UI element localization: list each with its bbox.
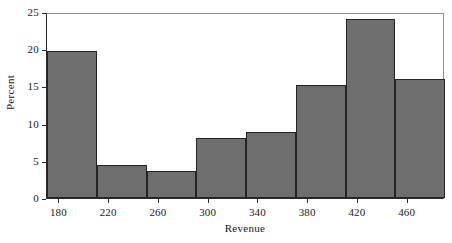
histogram-bar (47, 51, 97, 198)
x-tick-mark (307, 199, 308, 203)
y-axis-tick: 10 (0, 125, 46, 126)
y-axis-tick: 15 (0, 87, 46, 88)
x-tick-mark (357, 199, 358, 203)
x-tick-label: 300 (186, 205, 230, 219)
y-tick-label: 5 (33, 154, 39, 169)
histogram-bar (196, 138, 246, 198)
x-tick-label: 420 (335, 205, 379, 219)
histogram-bar (147, 171, 197, 198)
histogram-figure: Percent 0510152025 180220260300340380420… (0, 0, 452, 243)
y-axis-tick: 0 (0, 199, 46, 200)
histogram-bar (97, 165, 147, 198)
y-tick-label: 10 (28, 117, 39, 132)
bar-series (47, 14, 443, 198)
y-axis-tick: 20 (0, 50, 46, 51)
y-axis-title: Percent (4, 53, 17, 133)
x-tick-label: 180 (36, 205, 80, 219)
x-tick-mark (158, 199, 159, 203)
x-tick-label: 460 (385, 205, 429, 219)
histogram-bar (246, 132, 296, 198)
y-tick-label: 0 (33, 191, 39, 206)
histogram-bar (296, 85, 346, 198)
x-tick-label: 260 (136, 205, 180, 219)
x-tick-mark (407, 199, 408, 203)
histogram-bar (346, 19, 396, 198)
y-tick-label: 25 (28, 5, 39, 20)
y-tick-mark (42, 199, 46, 200)
x-tick-mark (257, 199, 258, 203)
x-tick-label: 380 (285, 205, 329, 219)
plot-area (46, 13, 444, 199)
x-tick-label: 340 (235, 205, 279, 219)
y-axis-tick: 5 (0, 162, 46, 163)
histogram-bar (395, 79, 445, 198)
x-tick-mark (58, 199, 59, 203)
y-tick-label: 15 (28, 79, 39, 94)
x-tick-mark (108, 199, 109, 203)
x-tick-mark (208, 199, 209, 203)
x-axis-title: Revenue (46, 221, 444, 235)
y-tick-label: 20 (28, 42, 39, 57)
y-axis-tick: 25 (0, 13, 46, 14)
x-tick-label: 220 (86, 205, 130, 219)
